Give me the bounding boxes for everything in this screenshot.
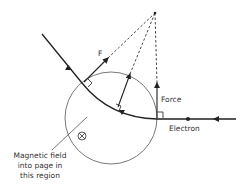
field-into-page-icon (78, 132, 86, 140)
path-arrow-exit-icon (65, 65, 72, 70)
path-arrow-incoming-icon (213, 116, 219, 122)
force-arrow-3 (84, 58, 108, 82)
field-label-line3: this region (20, 171, 60, 180)
electron-label: Electron (169, 124, 200, 133)
path-arrow-curve-icon (119, 110, 125, 115)
force-arrow-2 (118, 74, 130, 107)
electron-path (42, 34, 236, 119)
force-label: Force (161, 95, 182, 104)
field-label-line1: Magnetic field (14, 151, 67, 160)
electron-dot (186, 117, 190, 121)
center-of-curvature-dot (154, 12, 157, 15)
diagram-canvas: F Force Electron Magnetic field into pag… (0, 0, 246, 195)
field-label-leader (52, 117, 87, 150)
field-label-line2: into page in (18, 161, 63, 170)
force-short-label: F (98, 49, 102, 58)
